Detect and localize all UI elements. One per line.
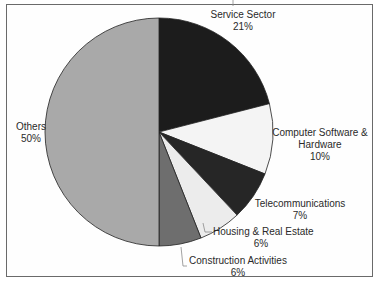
label-telecommunications: Telecommunications 7% [252, 198, 348, 222]
label-construction-activities: Construction Activities 6% [186, 255, 290, 279]
label-computer-software-hardware: Computer Software & Hardware 10% [270, 127, 370, 163]
label-others: Others 50% [14, 121, 48, 145]
label-housing-real-estate: Housing & Real Estate 6% [213, 226, 309, 250]
label-service-sector: Service Sector 21% [203, 9, 283, 33]
pie-slice-others [45, 18, 159, 246]
